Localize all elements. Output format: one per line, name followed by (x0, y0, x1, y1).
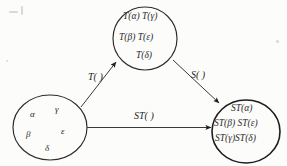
commutative-diagram: α γ β ε δ T(α) T(γ) T(β) T(ε) T(δ) ST(α)… (0, 0, 287, 166)
source-set-circle (13, 95, 87, 160)
diagram-canvas (0, 0, 287, 166)
image-set-ST-circle (212, 100, 280, 163)
edge-S-arrow (173, 60, 219, 103)
edge-T-arrow (81, 62, 116, 107)
image-set-T-circle (113, 7, 177, 70)
